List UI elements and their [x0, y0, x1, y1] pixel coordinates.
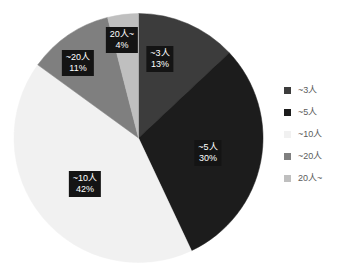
pie-slice-label-category: ~20人: [66, 52, 90, 63]
pie-slice-label-category: ~5人: [198, 142, 217, 153]
legend-swatch-icon: [284, 87, 291, 94]
pie-slice-label: 20人~4%: [106, 27, 138, 53]
legend-item-label: ~3人: [298, 85, 317, 95]
pie-slice-label-percent: 42%: [73, 184, 97, 195]
pie-slice-label-percent: 13%: [150, 59, 169, 70]
legend-item[interactable]: 20人~: [284, 167, 343, 189]
legend-item[interactable]: ~10人: [284, 123, 343, 145]
pie-slice-label: ~10人42%: [69, 171, 101, 197]
pie-slice-label: ~3人13%: [146, 46, 173, 72]
legend-swatch-icon: [284, 175, 291, 182]
legend-item[interactable]: ~5人: [284, 101, 343, 123]
pie-slice-label-category: ~10人: [73, 173, 97, 184]
pie-slice-label: ~5人30%: [194, 140, 221, 166]
pie-slice-label-category: ~3人: [150, 48, 169, 59]
legend-item[interactable]: ~3人: [284, 79, 343, 101]
legend-swatch-icon: [284, 109, 291, 116]
pie-slice-group: [14, 13, 263, 262]
legend-item-label: ~20人: [298, 151, 322, 161]
legend-swatch-icon: [284, 153, 291, 160]
pie-svg: [0, 0, 277, 276]
pie-slice-label: ~20人11%: [62, 50, 94, 76]
pie-chart-figure: ~3人13%~5人30%~10人42%~20人11%20人~4% ~3人~5人~…: [0, 0, 343, 276]
pie-slice-label-percent: 11%: [66, 63, 90, 74]
pie-slice-label-percent: 4%: [110, 40, 134, 51]
legend-swatch-icon: [284, 131, 291, 138]
legend-item-label: 20人~: [298, 173, 322, 183]
chart-legend: ~3人~5人~10人~20人20人~: [284, 79, 343, 189]
pie-plot-area: [0, 0, 277, 276]
legend-item-label: ~5人: [298, 107, 317, 117]
legend-item-label: ~10人: [298, 129, 322, 139]
legend-item[interactable]: ~20人: [284, 145, 343, 167]
pie-slice-label-percent: 30%: [198, 153, 217, 164]
pie-slice-label-category: 20人~: [110, 29, 134, 40]
